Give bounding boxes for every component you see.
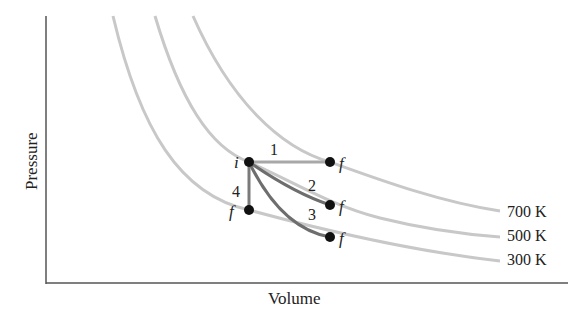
point-final-3 [325,232,335,242]
process-3-label: 3 [308,206,316,223]
point-final-1 [325,157,335,167]
label-final-1: f [339,154,346,173]
process-2-label: 2 [308,177,316,194]
isotherm-300k-label: 300 K [507,251,547,268]
point-final-4 [244,205,254,215]
label-final-3: f [339,229,346,248]
process-1-label: 1 [270,141,278,158]
isotherm-700k-curve [193,16,500,211]
x-axis-label: Volume [268,289,321,308]
process-4-label: 4 [232,183,240,200]
pv-diagram: i f f f f 1 2 3 4 700 K 500 K 300 K Volu… [0,0,580,312]
label-initial: i [234,153,239,172]
isotherm-300k-curve [113,16,500,261]
y-axis-label: Pressure [22,132,41,190]
isotherm-700k-label: 700 K [507,203,547,220]
point-final-2 [325,200,335,210]
point-initial [244,157,254,167]
isotherm-500k-label: 500 K [507,227,547,244]
